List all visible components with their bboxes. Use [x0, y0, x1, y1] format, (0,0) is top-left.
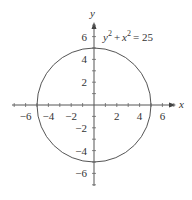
equation-annotation: y2+x2= 25 [102, 29, 153, 43]
x-tick-label: −6 [20, 110, 32, 122]
y-tick-label: 6 [82, 31, 88, 43]
y-tick-label: −2 [75, 122, 87, 134]
x-tick-label: 6 [160, 110, 166, 122]
x-tick-label: 4 [137, 110, 143, 122]
y-axis-label: y [89, 7, 95, 19]
x-tick-label: −2 [65, 110, 77, 122]
x-axis-label: x [178, 98, 184, 110]
y-tick-label: −6 [75, 167, 87, 179]
x-tick-label: 2 [114, 110, 120, 122]
x-tick-label: −4 [43, 110, 55, 122]
circle-plot: −6−4−2246642−2−4−6 x y y2+x2= 25 [0, 0, 192, 200]
y-tick-label: 2 [82, 76, 88, 88]
x-axis-arrow-icon [169, 103, 176, 108]
y-tick-label: −4 [75, 145, 87, 157]
y-tick-label: 4 [82, 53, 88, 65]
